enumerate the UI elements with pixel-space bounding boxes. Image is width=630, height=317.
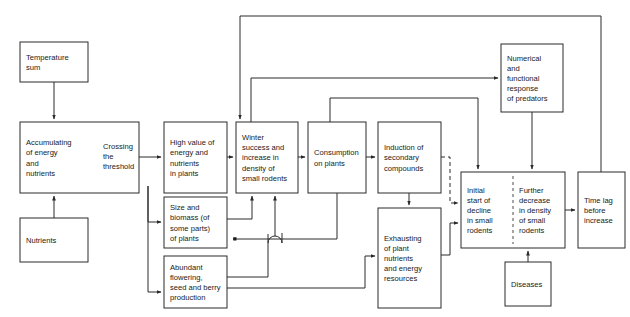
winter-success-increase-density-small-rodents[interactable]: Wintersuccess andincrease indensity ofsm…: [236, 122, 298, 193]
edge-induction-to-initial-decline-dashed: [441, 157, 458, 203]
abundant-flowering-seed-berry-production[interactable]: Abundantflowering,seed and berryproducti…: [164, 256, 227, 308]
temperature-sum[interactable]: Temperaturesum: [20, 42, 88, 82]
edge-abundant-flowering-to-winter-success: [227, 196, 282, 277]
nutrients-label: Nutrients: [26, 236, 57, 245]
nutrients[interactable]: Nutrients: [20, 218, 88, 262]
numerical-functional-response-of-predators[interactable]: Numericalandfunctionalresponseof predato…: [501, 44, 563, 112]
time-lag-before-increase[interactable]: Time lagbeforeincrease: [578, 172, 625, 248]
high-value-energy-nutrients-in-plants[interactable]: High value ofenergy andnutrientsin plant…: [164, 122, 227, 193]
edge-winter-success-to-predators: [251, 78, 498, 122]
size-and-biomass-of-plants[interactable]: Size andbiomass (ofsome parts)of plants: [164, 197, 227, 248]
exhausting-plant-nutrients-energy-resources[interactable]: Exhaustingof plantnutrientsand energyres…: [378, 208, 441, 308]
diseases[interactable]: Diseases: [505, 262, 551, 306]
edge-exhausting-to-initial-decline: [441, 223, 458, 255]
induction-of-secondary-compounds-label: Induction ofsecondarycompounds: [384, 143, 424, 172]
edge-size-biomass-to-winter-success: [227, 196, 252, 219]
edge-consumption-to-size-biomass-inhibition: [233, 193, 337, 239]
accumulating-energy-nutrients-box[interactable]: [20, 122, 139, 193]
consumption-on-plants[interactable]: Consumptionon plants: [308, 122, 366, 193]
flowchart-svg: TemperaturesumAccumulatingof energyandnu…: [0, 0, 630, 317]
edge-trunk-vertical: [148, 186, 161, 292]
nodes-layer: TemperaturesumAccumulatingof energyandnu…: [20, 42, 625, 308]
edge-trunk-to-size-biomass: [148, 186, 161, 222]
high-value-energy-nutrients-in-plants-box[interactable]: [164, 122, 227, 193]
edge-abundant-flowering-to-exhausting: [227, 256, 375, 288]
consumption-on-plants-box[interactable]: [308, 122, 366, 193]
flowchart-canvas: TemperaturesumAccumulatingof energyandnu…: [0, 0, 630, 317]
diseases-label: Diseases: [511, 280, 542, 289]
induction-of-secondary-compounds[interactable]: Induction ofsecondarycompounds: [378, 122, 441, 193]
accumulating-energy-nutrients[interactable]: Accumulatingof energyandnutrients: [20, 122, 139, 193]
temperature-sum-box[interactable]: [20, 42, 88, 82]
